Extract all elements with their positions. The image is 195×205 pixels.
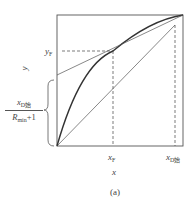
operating-line <box>57 15 183 75</box>
num-sub: D始 <box>21 102 31 108</box>
intercept-brace <box>44 80 54 146</box>
xD-label: xD始 <box>166 153 180 163</box>
diagonal-line <box>57 25 175 146</box>
x-axis-label: x <box>112 168 116 177</box>
xF-label: xF <box>108 153 115 163</box>
yF-label: yF <box>45 47 52 57</box>
yF-sub: F <box>49 51 52 57</box>
den-sub: min <box>17 117 26 123</box>
fraction-bar <box>5 110 43 111</box>
y-axis-label: y <box>20 67 29 71</box>
intercept-fraction: xD始 Rmin+1 <box>5 97 43 123</box>
xF-sub: F <box>112 157 115 163</box>
fraction-numerator: xD始 <box>5 97 43 109</box>
fraction-denominator: Rmin+1 <box>5 112 43 123</box>
figure-caption: (a) <box>110 187 120 197</box>
xD-sub: D始 <box>170 157 180 163</box>
den-tail: +1 <box>27 112 36 122</box>
